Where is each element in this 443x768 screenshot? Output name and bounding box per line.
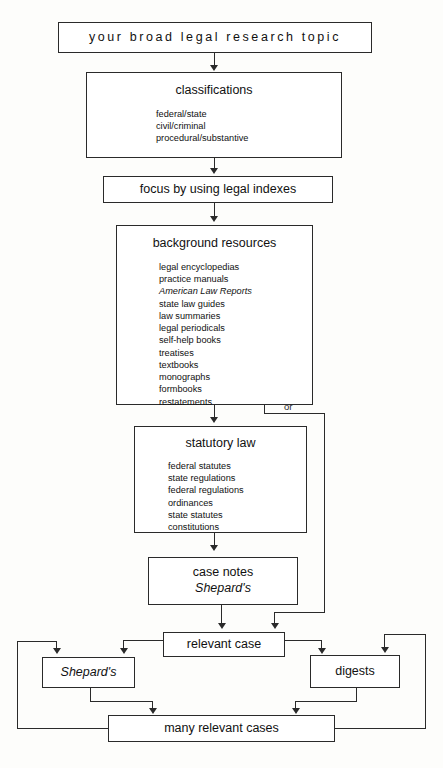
node-classifications-items: federal/state civil/criminal procedural/… <box>156 108 248 145</box>
arrowhead-many-cases-in-right <box>292 708 300 714</box>
node-case-notes-line1: case notes <box>193 565 253 581</box>
list-item: federal/state <box>156 108 248 120</box>
node-topic-label: your broad legal research topic <box>89 30 341 46</box>
list-item: state statutes <box>168 509 244 521</box>
node-relevant-case-label: relevant case <box>187 637 261 653</box>
node-many-relevant-cases-label: many relevant cases <box>164 721 279 737</box>
list-item: legal encyclopedias <box>159 261 252 273</box>
connector-or-to-relevant <box>274 612 325 613</box>
list-item: self-help books <box>159 334 252 346</box>
list-item: state regulations <box>168 472 244 484</box>
node-statutory-law-heading: statutory law <box>185 436 255 450</box>
connector-digests-across <box>295 701 357 702</box>
feedback-left-up <box>17 641 18 729</box>
arrowhead-classifications-in <box>210 65 218 71</box>
connector-relevant-to-shepards <box>123 640 164 641</box>
list-item: legal periodicals <box>159 322 252 334</box>
flowchart-canvas: your broad legal research topic classifi… <box>0 0 443 768</box>
list-item: procedural/substantive <box>156 132 248 144</box>
feedback-right-drop <box>384 634 385 648</box>
node-case-notes: case notes Shepard's <box>148 557 298 605</box>
feedback-left-top <box>17 641 57 642</box>
arrowhead-digests-in-right <box>381 647 389 653</box>
node-classifications-heading: classifications <box>175 83 252 97</box>
list-item: federal regulations <box>168 484 244 496</box>
node-classifications: classifications federal/state civil/crim… <box>86 72 342 158</box>
connector-focus-background <box>214 203 215 217</box>
feedback-right-out <box>334 728 426 729</box>
node-relevant-case: relevant case <box>163 632 285 657</box>
node-topic: your broad legal research topic <box>58 22 372 53</box>
node-digests: digests <box>310 655 400 688</box>
connector-relevant-to-digests <box>284 640 322 641</box>
arrowhead-many-cases-in-left <box>149 708 157 714</box>
arrowhead-shepards-in-left <box>53 648 61 654</box>
list-item: practice manuals <box>159 273 252 285</box>
feedback-right-top <box>384 634 426 635</box>
node-shepards-label: Shepard's <box>61 665 117 681</box>
arrowhead-casenotes-in <box>210 545 218 551</box>
node-statutory-law: statutory law federal statutes state reg… <box>134 426 307 533</box>
list-item: monographs <box>159 371 252 383</box>
node-focus-label: focus by using legal indexes <box>140 182 296 198</box>
node-background-resources-heading: background resources <box>153 236 277 250</box>
list-item: constitutions <box>168 521 244 533</box>
list-item: state law guides <box>159 298 252 310</box>
arrowhead-focus-in <box>210 168 218 174</box>
node-case-notes-line2: Shepard's <box>195 581 251 597</box>
list-item: treatises <box>159 347 252 359</box>
list-item: civil/criminal <box>156 120 248 132</box>
arrowhead-relevant-case-in-left <box>218 623 226 629</box>
node-shepards: Shepard's <box>42 657 135 688</box>
connector-shepards-across <box>90 701 153 702</box>
or-label: or <box>284 401 292 412</box>
connector-or-horizontal <box>264 413 325 414</box>
list-item: ordinances <box>168 497 244 509</box>
list-item: federal statutes <box>168 460 244 472</box>
list-item: textbooks <box>159 359 252 371</box>
connector-shepards-down <box>90 688 91 702</box>
node-focus: focus by using legal indexes <box>103 176 333 203</box>
arrowhead-shepards-in-right <box>120 648 128 654</box>
arrowhead-relevant-case-in-right <box>271 623 279 629</box>
connector-casenotes-relevant <box>221 605 222 624</box>
list-item: formbooks <box>159 383 252 395</box>
arrowhead-background-in <box>210 216 218 222</box>
node-digests-label: digests <box>335 664 375 680</box>
connector-digests-down <box>356 688 357 702</box>
arrowhead-digests-in-left <box>318 648 326 654</box>
node-many-relevant-cases: many relevant cases <box>108 715 335 742</box>
node-background-resources: background resources legal encyclopedias… <box>116 225 313 405</box>
connector-or-vertical <box>324 413 325 613</box>
feedback-left-out <box>17 728 109 729</box>
list-item: American Law Reports <box>159 285 252 297</box>
arrowhead-statutory-in <box>210 417 218 423</box>
list-item: restatements <box>159 396 252 408</box>
node-statutory-law-items: federal statutes state regulations feder… <box>168 460 244 533</box>
node-background-resources-items: legal encyclopedias practice manuals Ame… <box>159 261 252 408</box>
list-item: law summaries <box>159 310 252 322</box>
feedback-right-up <box>425 634 426 729</box>
